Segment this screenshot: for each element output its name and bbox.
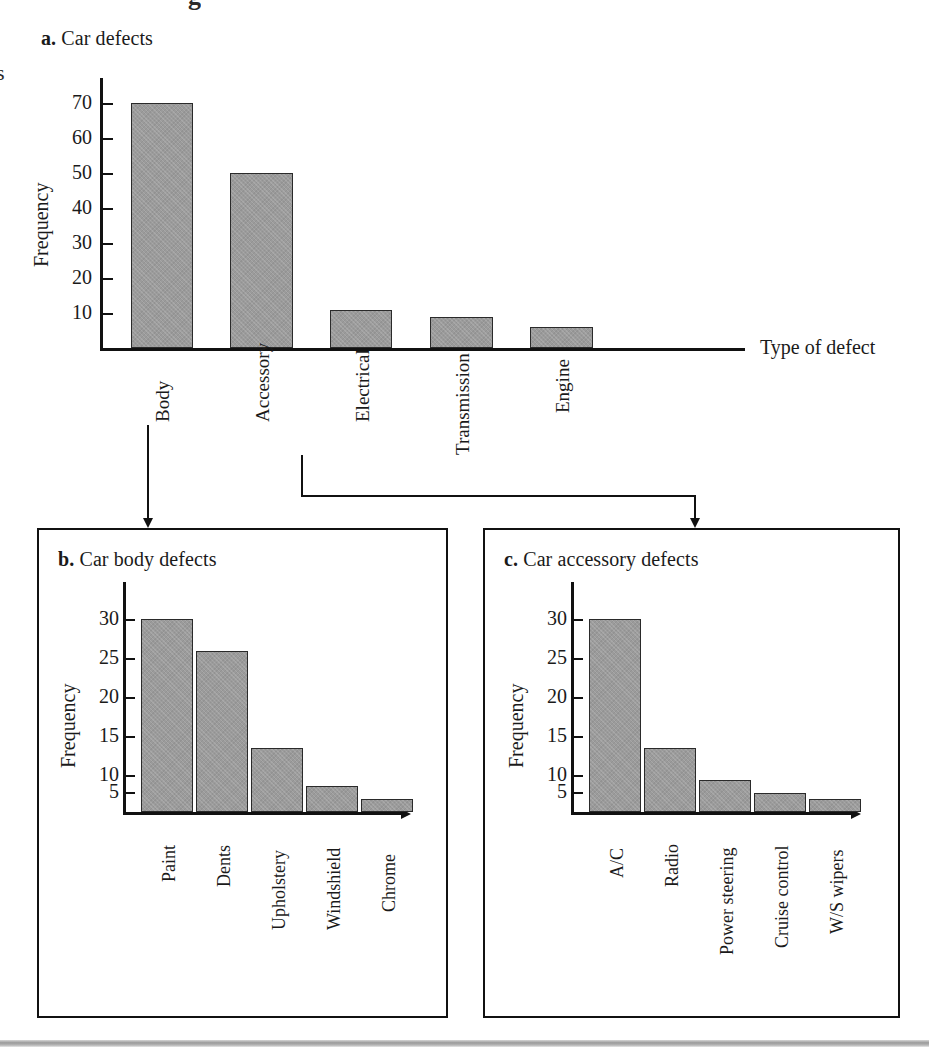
- xlabel-a-electrical: Electrical: [352, 349, 374, 422]
- panel-c-ytick-label: 25: [511, 646, 567, 669]
- panel-a-title-text: Car defects: [61, 27, 153, 49]
- panel-b-title: b. Car body defects: [58, 548, 217, 571]
- bar-b-chrome: [361, 799, 413, 812]
- bar-b-dents: [196, 651, 248, 812]
- panel-a-ytick-label: 50: [36, 161, 92, 184]
- panel-a-ytick-label: 10: [36, 301, 92, 324]
- panel-c-ytick: [574, 775, 583, 777]
- panel-a-ytick: [103, 278, 113, 280]
- panel-b-ytick: [126, 792, 135, 794]
- xlabel-a-accessory: Accessory: [252, 343, 274, 422]
- panel-a-ytick: [103, 313, 113, 315]
- xlabel-c-ws-wipers: W/S wipers: [827, 850, 848, 935]
- panel-b-ytick: [126, 697, 135, 699]
- xlabel-c-power-steering: Power steering: [717, 848, 738, 955]
- bar-a-electrical: [330, 310, 392, 348]
- panel-b-label: b.: [58, 548, 74, 570]
- arrow-head-down-icon: [143, 518, 153, 528]
- xlabel-b-dents: Dents: [214, 845, 235, 887]
- xlabel-c-radio: Radio: [662, 844, 683, 887]
- xlabel-c-cruise-control: Cruise control: [772, 846, 793, 948]
- panel-b-x-axis: [123, 812, 403, 815]
- xlabel-c-ac: A/C: [607, 848, 628, 878]
- panel-b-ytick-label: 30: [63, 607, 119, 630]
- panel-c-title-text: Car accessory defects: [523, 548, 698, 570]
- panel-b-ytick: [126, 658, 135, 660]
- bar-c-ws-wipers: [809, 799, 861, 812]
- bar-a-body: [131, 103, 193, 348]
- bar-a-engine: [530, 327, 593, 348]
- panel-c-ytick: [574, 736, 583, 738]
- bar-a-transmission: [430, 317, 493, 348]
- panel-a-ytick: [103, 138, 113, 140]
- panel-c-ytick-label: 5: [511, 780, 567, 803]
- panel-a-ytick: [103, 103, 113, 105]
- page-margin-glyph-top: g: [188, 0, 201, 12]
- panel-c-ytick: [574, 619, 583, 621]
- connector-line-vertical: [147, 425, 149, 521]
- panel-b-ytick: [126, 775, 135, 777]
- panel-c-title: c. Car accessory defects: [504, 548, 699, 571]
- panel-c-y-axis-title: Frequency: [505, 684, 528, 768]
- panel-c-ytick: [574, 792, 583, 794]
- page-margin-glyph-left: s: [0, 60, 5, 86]
- connector-line-vertical: [301, 455, 303, 497]
- panel-b-y-axis-title: Frequency: [57, 684, 80, 768]
- panel-a-ytick-label: 70: [36, 91, 92, 114]
- bar-b-upholstery: [251, 748, 303, 812]
- panel-c-frame: c. Car accessory defects 30 25 20 15 10 …: [483, 528, 900, 1018]
- bar-a-accessory: [230, 173, 293, 348]
- panel-a-label: a.: [41, 27, 56, 49]
- bar-c-power-steering: [699, 780, 751, 812]
- panel-b-frame: b. Car body defects 30 25 20 15 10 5 Fre…: [37, 528, 448, 1018]
- panel-c-ytick-label: 30: [511, 607, 567, 630]
- connector-line-horizontal: [301, 495, 696, 497]
- xlabel-b-paint: Paint: [159, 845, 180, 882]
- bar-c-cruise-control: [754, 793, 806, 812]
- figure-page: s g a. Car defects 70 60 50 40 30 20 10 …: [0, 0, 929, 1056]
- bar-c-ac: [589, 619, 641, 812]
- page-bottom-rule: [0, 1040, 929, 1047]
- panel-a-ytick: [103, 208, 113, 210]
- panel-b-ytick-label: 5: [63, 780, 119, 803]
- bar-c-radio: [644, 748, 696, 812]
- arrow-head-down-icon: [690, 518, 700, 528]
- xlabel-b-windshield: Windshield: [324, 848, 345, 930]
- bar-b-windshield: [306, 786, 358, 812]
- panel-a-ytick: [103, 243, 113, 245]
- panel-b-ytick: [126, 736, 135, 738]
- panel-a-title: a. Car defects: [41, 27, 153, 50]
- panel-b-ytick-label: 25: [63, 646, 119, 669]
- panel-a-y-axis-title: Frequency: [30, 183, 53, 267]
- xlabel-b-upholstery: Upholstery: [269, 850, 290, 930]
- xlabel-b-chrome: Chrome: [379, 854, 400, 912]
- xlabel-a-transmission: Transmission: [452, 353, 474, 455]
- panel-c-x-axis: [571, 812, 853, 815]
- xlabel-a-engine: Engine: [552, 359, 574, 413]
- panel-a-ytick: [103, 173, 113, 175]
- panel-a-ytick-label: 20: [36, 266, 92, 289]
- panel-a-ytick-label: 60: [36, 126, 92, 149]
- panel-c-ytick: [574, 658, 583, 660]
- panel-a-x-axis: [100, 348, 745, 351]
- panel-a-y-axis: [100, 78, 103, 350]
- xlabel-a-body: Body: [152, 381, 174, 422]
- panel-b-title-text: Car body defects: [79, 548, 216, 570]
- panel-b-ytick: [126, 619, 135, 621]
- panel-c-label: c.: [504, 548, 518, 570]
- panel-a-x-axis-title: Type of defect: [760, 336, 875, 359]
- bar-b-paint: [141, 619, 193, 812]
- panel-c-ytick: [574, 697, 583, 699]
